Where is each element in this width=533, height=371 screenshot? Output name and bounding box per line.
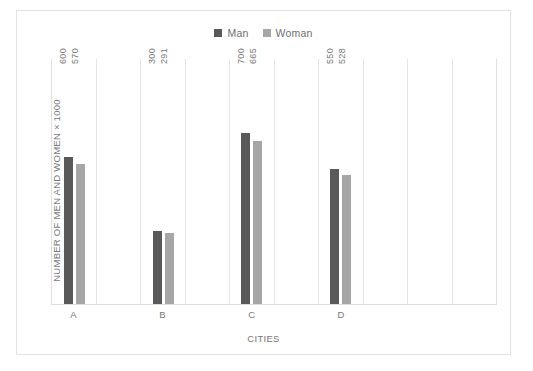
bar-b-man[interactable]	[153, 231, 162, 305]
bar-group-empty	[363, 59, 407, 304]
bar-group-empty	[96, 59, 140, 304]
legend-swatch-man-square-marker-icon	[214, 29, 222, 37]
bars-layer: 600 570 300 291	[52, 59, 496, 304]
bar-wrap-b-man[interactable]: 300	[153, 59, 162, 304]
bar-value-label: 300	[147, 48, 157, 64]
bar-value-label: 665	[248, 48, 258, 64]
bar-group-empty	[274, 59, 318, 304]
bar-value-label: 600	[58, 48, 68, 64]
bar-group-b: 300 291	[141, 59, 185, 304]
bar-value-label: 570	[70, 48, 80, 64]
bar-wrap-a-man[interactable]: 600	[64, 59, 73, 304]
bar-d-woman[interactable]	[342, 175, 351, 304]
x-tick-empty	[408, 309, 453, 320]
bar-value-label: 550	[325, 48, 335, 64]
bar-group-empty	[452, 59, 496, 304]
bar-value-label: 700	[236, 48, 246, 64]
legend-entry-woman[interactable]: Woman	[263, 27, 313, 39]
bar-wrap-c-woman[interactable]: 665	[253, 59, 262, 304]
x-tick-empty	[452, 309, 497, 320]
x-axis-title: CITIES	[17, 333, 510, 344]
x-tick-empty	[363, 309, 408, 320]
legend-label-woman: Woman	[276, 27, 313, 39]
bar-wrap-d-man[interactable]: 550	[330, 59, 339, 304]
chart-frame: Man Woman NUMBER OF MEN AND WOMEN × 1000…	[16, 10, 511, 355]
x-tick-empty	[96, 309, 141, 320]
x-tick-empty	[274, 309, 319, 320]
bar-d-man[interactable]	[330, 169, 339, 304]
bar-wrap-a-woman[interactable]: 570	[76, 59, 85, 304]
bar-group-empty	[407, 59, 451, 304]
bar-group-d: 550 528	[318, 59, 362, 304]
bar-a-woman[interactable]	[76, 164, 85, 304]
bar-value-label: 291	[159, 48, 169, 64]
x-tick-b: B	[140, 309, 185, 320]
x-tick-c: C	[229, 309, 274, 320]
bar-a-man[interactable]	[64, 157, 73, 304]
bar-value-label: 528	[337, 48, 347, 64]
legend-entry-man[interactable]: Man	[214, 27, 248, 39]
x-axis-tick-labels: A B C D	[51, 309, 497, 320]
bar-group-c: 700 665	[230, 59, 274, 304]
x-tick-a: A	[51, 309, 96, 320]
legend-swatch-woman-square-marker-icon	[263, 29, 271, 37]
bar-wrap-c-man[interactable]: 700	[241, 59, 250, 304]
bar-group-a: 600 570	[52, 59, 96, 304]
chart-legend: Man Woman	[17, 27, 510, 39]
x-tick-d: D	[319, 309, 364, 320]
bar-wrap-d-woman[interactable]: 528	[342, 59, 351, 304]
bar-b-woman[interactable]	[165, 233, 174, 304]
bar-group-empty	[185, 59, 229, 304]
plot-area: 600 570 300 291	[51, 59, 497, 305]
legend-label-man: Man	[227, 27, 248, 39]
bar-wrap-b-woman[interactable]: 291	[165, 59, 174, 304]
bar-c-man[interactable]	[241, 133, 250, 305]
bar-c-woman[interactable]	[253, 141, 262, 304]
x-tick-empty	[185, 309, 230, 320]
